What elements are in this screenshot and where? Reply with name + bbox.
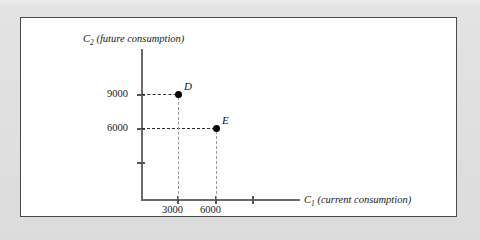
y-axis-title: C2 (future consumption) [83, 33, 184, 47]
figure-root: D E 9000 6000 3000 6000 C2 (future consu… [0, 0, 480, 240]
data-point-d-label: D [184, 80, 192, 92]
data-point-e-label: E [222, 114, 229, 126]
x-tick-label-6000: 6000 [200, 204, 221, 215]
y-axis-title-subscript: 2 [90, 38, 94, 47]
chart-panel: D E 9000 6000 3000 6000 C2 (future consu… [20, 17, 457, 217]
x-axis-title-var: C [304, 194, 311, 205]
y-tick-3000 [137, 162, 145, 164]
y-tick-label-9000: 9000 [107, 88, 128, 99]
x-axis-line [141, 199, 286, 201]
plot-area: D E 9000 6000 3000 6000 C2 (future consu… [21, 18, 458, 218]
x-tick-label-3000: 3000 [162, 204, 183, 215]
x-axis-title-subscript: 1 [311, 199, 315, 208]
data-point-d[interactable] [175, 91, 182, 98]
x-tick-9000 [252, 196, 254, 204]
guide-line-d-vertical [178, 97, 179, 199]
guide-line-e-horizontal [142, 128, 220, 129]
y-axis-title-var: C [83, 33, 90, 44]
x-axis-extension-line [286, 199, 300, 201]
guide-line-e-vertical [216, 131, 217, 199]
y-axis-title-text: (future consumption) [96, 33, 184, 44]
y-tick-label-6000: 6000 [107, 122, 128, 133]
y-axis-line [141, 49, 143, 201]
x-axis-title: C1 (current consumption) [304, 194, 411, 208]
data-point-e[interactable] [213, 125, 220, 132]
x-axis-title-text: (current consumption) [317, 194, 411, 205]
